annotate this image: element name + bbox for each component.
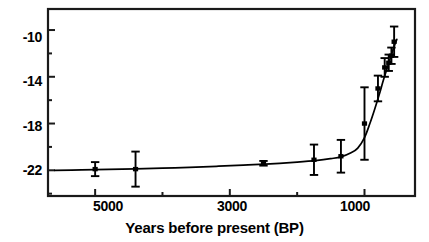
chart-figure: -10 -14 -18 -22 5000 3000 1000 Years bef…	[0, 0, 429, 242]
y-tick-label-2: -18	[4, 118, 42, 134]
y-tick-label-3: -22	[4, 162, 42, 178]
x-tick-label-2: 1000	[320, 198, 390, 214]
x-tick-label-1: 3000	[197, 198, 267, 214]
y-tick-label-1: -14	[4, 73, 42, 89]
x-tick-label-0: 5000	[73, 198, 143, 214]
x-axis-title: Years before present (BP)	[0, 219, 429, 236]
y-tick-label-0: -10	[4, 29, 42, 45]
